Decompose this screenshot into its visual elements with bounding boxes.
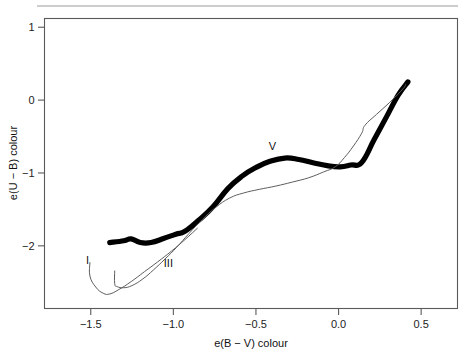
y-axis-ticks: 10−1−2 xyxy=(22,21,45,252)
series-annotation-v: V xyxy=(269,140,277,152)
series-annotation-iii: III xyxy=(164,257,173,269)
plot-frame xyxy=(45,19,458,309)
series-line-i xyxy=(89,228,197,294)
y-tick-label: 1 xyxy=(28,21,34,33)
x-axis-ticks: −1.5−1.0−0.50.00.5 xyxy=(80,309,429,330)
y-tick-label: 0 xyxy=(28,94,34,106)
y-axis-title: e(U − B) colour xyxy=(7,126,19,201)
y-tick-label: −2 xyxy=(22,240,35,252)
data-series-layer xyxy=(89,82,408,295)
x-tick-label: 0.5 xyxy=(414,318,429,330)
x-tick-label: −0.5 xyxy=(245,318,267,330)
y-tick-label: −1 xyxy=(22,167,35,179)
series-line-iii xyxy=(114,84,405,287)
x-tick-label: −1.5 xyxy=(80,318,102,330)
x-axis-title: e(B − V) colour xyxy=(214,337,288,349)
series-line-v xyxy=(110,82,408,243)
x-tick-label: −1.0 xyxy=(162,318,184,330)
chart-figure: −1.5−1.0−0.50.00.5 10−1−2 VIIII e(B − V)… xyxy=(0,0,474,360)
series-annotations: VIIII xyxy=(86,140,277,269)
series-annotation-i: I xyxy=(86,254,89,266)
x-tick-label: 0.0 xyxy=(331,318,346,330)
plot-canvas: −1.5−1.0−0.50.00.5 10−1−2 VIIII e(B − V)… xyxy=(0,0,474,360)
